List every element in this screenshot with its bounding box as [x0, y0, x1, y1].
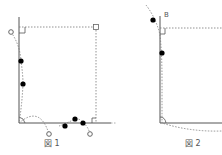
diagram-canvas — [0, 0, 222, 155]
fig1-open-circle — [88, 132, 93, 137]
fig1-dashed-arc-bottom — [19, 116, 49, 134]
fig2-dashed-curve — [146, 5, 222, 131]
figure-2 — [146, 5, 222, 131]
fig1-right-angle-bottom — [92, 118, 96, 123]
fig2-right-angle-top — [160, 28, 165, 34]
fig1-filled-dot — [62, 123, 67, 128]
fig2-label-b: B — [164, 11, 169, 19]
fig1-filled-dot — [18, 58, 23, 63]
fig1-filled-dot — [72, 116, 77, 121]
fig1-corner-square — [94, 25, 99, 30]
fig1-caption: 図 1 — [44, 137, 60, 148]
fig2-filled-dot — [159, 50, 164, 55]
fig2-filled-dot — [150, 17, 155, 22]
figure-1 — [9, 17, 111, 136]
fig1-open-circle — [9, 30, 14, 35]
fig2-origin-angle-arc — [160, 117, 166, 123]
fig1-open-circle — [47, 132, 52, 137]
fig1-filled-dot — [20, 81, 25, 86]
fig2-caption: 図 2 — [185, 137, 201, 148]
fig1-right-angle-top — [19, 27, 25, 33]
fig1-filled-dot — [80, 120, 85, 125]
fig1-dashed-curve-left — [11, 32, 23, 123]
